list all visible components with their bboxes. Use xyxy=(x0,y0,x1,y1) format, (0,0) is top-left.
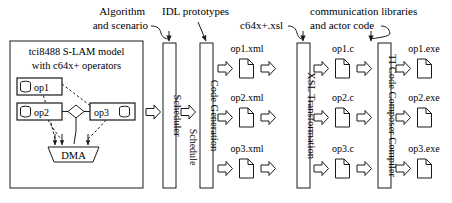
database-cylinder-icon xyxy=(21,81,31,92)
document-icon[interactable] xyxy=(240,108,254,127)
document-icon[interactable] xyxy=(240,59,254,78)
annotation-idl-arrow xyxy=(198,22,206,41)
stage-scheduler[interactable]: Scheduler xyxy=(163,43,183,188)
artifact-row-c-3: op3.c xyxy=(314,143,372,178)
artifact-row-xml-3: op3.xml xyxy=(218,143,276,178)
model-node-op1-label: op1 xyxy=(34,82,49,93)
artifact-label-op2-exe: op2.exe xyxy=(408,92,440,103)
artifact-label-op1-xml: op1.xml xyxy=(230,43,263,54)
model-node-dma[interactable]: DMA xyxy=(48,147,99,162)
artifact-row-xml-2: op2.xml xyxy=(218,92,276,127)
document-icon[interactable] xyxy=(336,159,350,178)
document-icon[interactable] xyxy=(240,159,254,178)
annotation-c64x-xsl-label: c64x+.xsl xyxy=(240,19,283,31)
annotation-c64x-xsl-leader xyxy=(288,26,303,39)
annotation-communication-libraries: communication libraries and actor code xyxy=(310,5,417,41)
model-node-op2-label: op2 xyxy=(34,107,49,118)
model-node-dma-label: DMA xyxy=(61,150,86,161)
model-node-op3[interactable]: op3 xyxy=(90,103,135,120)
annotation-algorithm-line1: Algorithm xyxy=(99,5,145,17)
toolchain-flow-diagram: Algorithm and scenario IDL prototypes c6… xyxy=(0,0,452,203)
stage-arrow-model-to-scheduler xyxy=(146,105,161,119)
artifact-label-op3-c: op3.c xyxy=(332,143,355,154)
inter-stage-schedule: Schedule xyxy=(181,105,199,166)
artifact-column-exe: op1.exe op2.exe op3.exe xyxy=(396,43,440,178)
database-cylinder-icon xyxy=(21,106,31,117)
artifact-row-c-1: op1.c xyxy=(314,43,372,78)
artifact-label-op1-exe: op1.exe xyxy=(408,43,440,54)
annotation-idl-prototypes: IDL prototypes xyxy=(162,5,229,41)
artifact-row-xml-1: op1.xml xyxy=(218,43,276,78)
stage-ti-code-composer-compiler[interactable]: TI Code Composer Compiler xyxy=(378,43,398,188)
artifact-row-exe-2: op2.exe xyxy=(396,92,440,127)
annotation-algorithm-leader xyxy=(151,26,169,39)
stage-code-generation[interactable]: Code Generation xyxy=(200,43,220,188)
inter-stage-schedule-label: Schedule xyxy=(188,129,199,166)
database-cylinder-icon xyxy=(120,106,130,117)
annotation-algorithm-line2: and scenario xyxy=(93,19,149,31)
model-box: tci8488 S-LAM model with c64x+ operators… xyxy=(10,41,143,188)
document-icon[interactable] xyxy=(336,108,350,127)
document-icon[interactable] xyxy=(418,159,432,178)
artifact-column-xml: op1.xml op2.xml op3.xml xyxy=(218,43,276,178)
artifact-row-c-2: op2.c xyxy=(314,92,372,127)
annotation-c64x-xsl: c64x+.xsl xyxy=(240,19,303,41)
artifact-row-exe-1: op1.exe xyxy=(396,43,440,78)
document-icon[interactable] xyxy=(418,108,432,127)
annotation-comm-line2: and actor code xyxy=(310,19,374,31)
artifact-label-op2-c: op2.c xyxy=(332,92,355,103)
artifact-label-op3-xml: op3.xml xyxy=(230,143,263,154)
document-icon[interactable] xyxy=(418,59,432,78)
document-icon[interactable] xyxy=(336,59,350,78)
artifact-label-op1-c: op1.c xyxy=(332,43,355,54)
annotation-algorithm-and-scenario: Algorithm and scenario xyxy=(93,5,169,41)
annotation-idl-line1: IDL prototypes xyxy=(162,5,229,17)
model-box-title-line2: with c64x+ operators xyxy=(32,60,121,71)
artifact-label-op2-xml: op2.xml xyxy=(230,92,263,103)
annotation-comm-line1: communication libraries xyxy=(310,5,417,17)
model-node-op2[interactable]: op2 xyxy=(17,103,62,120)
artifact-label-op3-exe: op3.exe xyxy=(408,143,440,154)
artifact-row-exe-3: op3.exe xyxy=(396,143,440,178)
artifact-column-c: op1.c op2.c op3.c xyxy=(314,43,372,178)
model-node-op3-label: op3 xyxy=(94,107,109,118)
model-node-op1[interactable]: op1 xyxy=(17,78,62,95)
model-box-title-line1: tci8488 S-LAM model xyxy=(29,46,125,57)
